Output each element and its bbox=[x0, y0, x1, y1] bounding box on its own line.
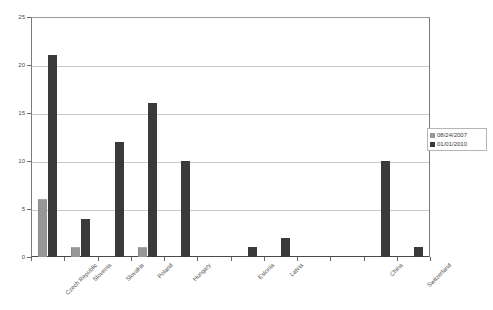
x-tick-mark bbox=[197, 257, 198, 261]
legend-swatch-icon bbox=[430, 133, 435, 138]
y-tick-label: 5 bbox=[5, 206, 25, 213]
x-tick-mark bbox=[330, 257, 331, 261]
x-tick-mark bbox=[397, 257, 398, 261]
x-tick-mark bbox=[264, 257, 265, 261]
x-tick-mark bbox=[164, 257, 165, 261]
x-tick-mark bbox=[297, 257, 298, 261]
legend-swatch-icon bbox=[430, 142, 435, 147]
category-label: Hungary bbox=[191, 262, 212, 283]
bar bbox=[281, 238, 290, 257]
bar bbox=[148, 103, 157, 257]
legend-item: 01/01/2010 bbox=[430, 140, 484, 148]
x-tick-mark bbox=[231, 257, 232, 261]
bar bbox=[381, 161, 390, 257]
bar bbox=[181, 161, 190, 257]
bar bbox=[248, 247, 257, 257]
x-tick-mark bbox=[131, 257, 132, 261]
bar bbox=[71, 247, 80, 257]
x-tick-mark bbox=[64, 257, 65, 261]
legend-label: 01/01/2010 bbox=[437, 140, 467, 148]
y-tick-label: 0 bbox=[5, 254, 25, 261]
bar bbox=[38, 199, 47, 257]
category-label: Slovakia bbox=[125, 262, 146, 283]
bar bbox=[115, 142, 124, 257]
bar bbox=[138, 247, 147, 257]
y-tick-label: 25 bbox=[5, 14, 25, 21]
legend-label: 08/24/2007 bbox=[437, 131, 467, 139]
y-tick-label: 10 bbox=[5, 158, 25, 165]
bars-layer bbox=[31, 17, 430, 257]
category-label: Switzerland bbox=[426, 262, 453, 289]
bar bbox=[414, 247, 423, 257]
x-tick-mark bbox=[364, 257, 365, 261]
bar bbox=[81, 219, 90, 257]
y-tick-label: 15 bbox=[5, 110, 25, 117]
x-tick-mark bbox=[98, 257, 99, 261]
x-tick-mark bbox=[430, 257, 431, 261]
y-tick-label: 20 bbox=[5, 62, 25, 69]
category-label: Latvia bbox=[289, 262, 305, 278]
category-label: Estonia bbox=[257, 262, 276, 281]
x-tick-mark bbox=[31, 257, 32, 261]
bar-chart: 0510152025 Czech RepublicSloveniaSlovaki… bbox=[0, 0, 493, 310]
legend-item: 08/24/2007 bbox=[430, 131, 484, 139]
chart-legend: 08/24/200701/01/2010 bbox=[427, 128, 487, 151]
bar bbox=[48, 55, 57, 257]
category-label: Poland bbox=[157, 262, 175, 280]
category-label: China bbox=[389, 262, 405, 278]
